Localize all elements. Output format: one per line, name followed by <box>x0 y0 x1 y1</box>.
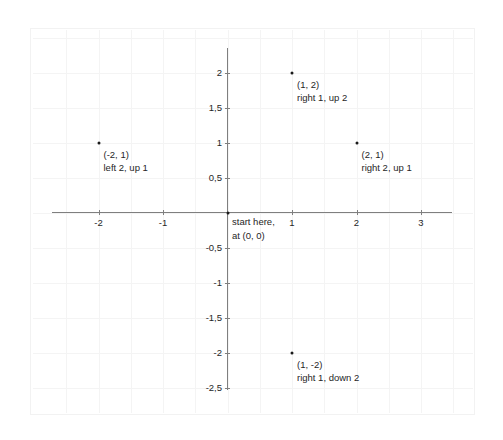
origin-point <box>226 211 229 214</box>
x-axis-tick <box>99 210 100 215</box>
y-axis <box>227 48 228 390</box>
y-axis-tick-label: -0,5 <box>206 243 222 253</box>
y-axis-tick <box>225 73 230 74</box>
gridline-horizontal <box>33 388 473 389</box>
data-point-coordinate-label: (1, -2) <box>297 358 359 372</box>
gridline-horizontal <box>33 318 473 319</box>
data-point <box>291 71 294 74</box>
gridline-vertical <box>195 30 196 413</box>
coordinate-plane-figure: -2-1123 21,510,5-0,5-1-1,5-2-2,5 (1, 2)r… <box>0 0 503 440</box>
y-axis-tick <box>225 388 230 389</box>
data-point-annotation: (1, 2)right 1, up 2 <box>297 78 347 106</box>
y-axis-tick-label: 2 <box>217 68 222 78</box>
gridline-vertical <box>453 30 454 413</box>
origin-annotation-line1: start here, <box>232 215 275 229</box>
gridline-horizontal <box>33 178 473 179</box>
y-axis-tick-label: 1 <box>217 138 222 148</box>
y-axis-tick-label: -1 <box>214 278 222 288</box>
data-point <box>291 351 294 354</box>
data-point-move-label: right 1, up 2 <box>297 91 347 105</box>
gridline-horizontal <box>33 283 473 284</box>
data-point-coordinate-label: (1, 2) <box>297 78 347 92</box>
y-axis-tick <box>225 143 230 144</box>
data-point-annotation: (-2, 1)left 2, up 1 <box>104 148 148 176</box>
data-point-annotation: (1, -2)right 1, down 2 <box>297 358 359 386</box>
gridline-vertical <box>131 30 132 413</box>
gridline-horizontal <box>33 73 473 74</box>
origin-annotation: start here, at (0, 0) <box>232 215 275 243</box>
gridline-horizontal <box>33 38 473 39</box>
y-axis-tick <box>225 318 230 319</box>
gridline-vertical <box>66 30 67 413</box>
gridline-vertical <box>228 30 229 413</box>
y-axis-tick-label: 1,5 <box>209 103 222 113</box>
y-axis-tick <box>225 283 230 284</box>
y-axis-tick <box>225 248 230 249</box>
gridline-horizontal <box>33 108 473 109</box>
x-axis-tick-label: 2 <box>354 218 359 228</box>
x-axis-tick <box>421 210 422 215</box>
x-axis-tick-label: -1 <box>159 218 167 228</box>
data-point-move-label: right 1, down 2 <box>297 371 359 385</box>
y-axis-tick <box>225 353 230 354</box>
y-axis-tick-label: 0,5 <box>209 173 222 183</box>
data-point-move-label: right 2, up 1 <box>362 161 412 175</box>
y-axis-tick <box>225 178 230 179</box>
y-axis-tick-label: -2 <box>214 348 222 358</box>
x-axis-tick <box>292 210 293 215</box>
data-point-move-label: left 2, up 1 <box>104 161 148 175</box>
x-axis-tick-label: 3 <box>418 218 423 228</box>
y-axis-tick-label: -2,5 <box>206 383 222 393</box>
origin-annotation-line2: at (0, 0) <box>232 229 275 243</box>
data-point-coordinate-label: (-2, 1) <box>104 148 148 162</box>
gridline-vertical <box>389 30 390 413</box>
y-axis-tick <box>225 108 230 109</box>
x-axis-tick-label: -2 <box>94 218 102 228</box>
gridline-horizontal <box>33 248 473 249</box>
data-point <box>355 141 358 144</box>
x-axis-tick <box>163 210 164 215</box>
x-axis <box>52 212 452 213</box>
data-point-coordinate-label: (2, 1) <box>362 148 412 162</box>
x-axis-tick-label: 1 <box>289 218 294 228</box>
gridline-horizontal <box>33 353 473 354</box>
plot-area: -2-1123 21,510,5-0,5-1-1,5-2-2,5 (1, 2)r… <box>0 0 503 440</box>
x-axis-tick <box>357 210 358 215</box>
y-axis-tick-label: -1,5 <box>206 313 222 323</box>
data-point <box>97 141 100 144</box>
data-point-annotation: (2, 1)right 2, up 1 <box>362 148 412 176</box>
